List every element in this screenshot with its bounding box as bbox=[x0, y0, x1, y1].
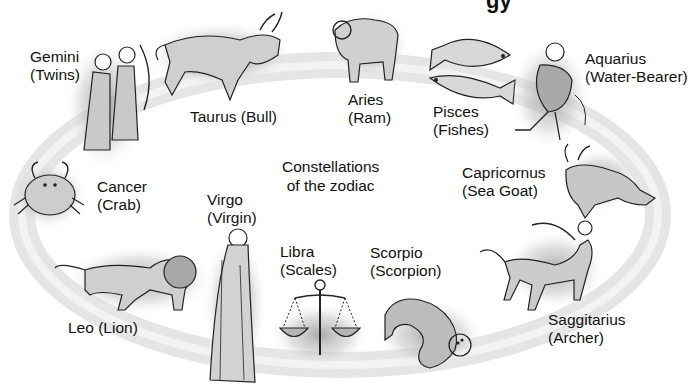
constellation-name: Aries bbox=[348, 91, 391, 109]
label-capricornus: Capricornus (Sea Goat) bbox=[462, 164, 546, 200]
archer-icon bbox=[480, 221, 605, 310]
constellation-meaning: (Water-Bearer) bbox=[585, 68, 688, 86]
label-saggitarius: Saggitarius (Archer) bbox=[548, 311, 626, 347]
constellation-meaning: (Sea Goat) bbox=[462, 182, 546, 200]
constellation-name: Taurus bbox=[190, 108, 237, 125]
label-aries: Aries (Ram) bbox=[348, 91, 391, 127]
constellation-meaning: (Fishes) bbox=[433, 121, 489, 139]
constellation-name: Leo bbox=[68, 319, 94, 336]
constellation-meaning: (Scorpion) bbox=[370, 262, 442, 280]
constellation-meaning: (Ram) bbox=[348, 109, 391, 127]
center-caption-line1: Constellations bbox=[282, 157, 379, 176]
constellation-name: Saggitarius bbox=[548, 311, 626, 329]
constellation-meaning: (Lion) bbox=[98, 319, 138, 336]
constellation-name: Gemini bbox=[30, 48, 80, 66]
scales-icon bbox=[270, 280, 370, 367]
constellation-meaning: (Scales) bbox=[280, 261, 337, 279]
constellation-name: Libra bbox=[280, 243, 337, 261]
label-virgo: Virgo (Virgin) bbox=[207, 191, 257, 227]
constellation-name: Virgo bbox=[207, 191, 257, 209]
label-scorpio: Scorpio (Scorpion) bbox=[370, 244, 442, 280]
center-caption-line2: of the zodiac bbox=[282, 176, 379, 195]
constellation-meaning: (Twins) bbox=[30, 66, 80, 84]
crab-icon bbox=[8, 160, 88, 230]
scorpion-icon bbox=[375, 299, 485, 370]
constellation-meaning: (Virgin) bbox=[207, 209, 257, 227]
label-pisces: Pisces (Fishes) bbox=[433, 103, 489, 139]
label-libra: Libra (Scales) bbox=[280, 243, 337, 279]
label-aquarius: Aquarius (Water-Bearer) bbox=[585, 50, 688, 86]
water-bearer-icon bbox=[510, 40, 590, 150]
constellation-name: Aquarius bbox=[585, 50, 688, 68]
label-taurus: Taurus (Bull) bbox=[190, 108, 277, 126]
constellation-meaning: (Crab) bbox=[97, 196, 147, 214]
label-gemini: Gemini (Twins) bbox=[30, 48, 80, 84]
constellation-name: Cancer bbox=[97, 178, 147, 196]
label-leo: Leo (Lion) bbox=[68, 319, 138, 337]
constellation-name: Capricornus bbox=[462, 164, 546, 182]
constellation-meaning: (Archer) bbox=[548, 329, 626, 347]
constellation-meaning: (Bull) bbox=[241, 108, 277, 125]
label-cancer: Cancer (Crab) bbox=[97, 178, 147, 214]
bull-icon bbox=[145, 12, 295, 100]
center-caption: Constellations of the zodiac bbox=[282, 157, 379, 195]
constellation-name: Pisces bbox=[433, 103, 489, 121]
constellation-name: Scorpio bbox=[370, 244, 442, 262]
